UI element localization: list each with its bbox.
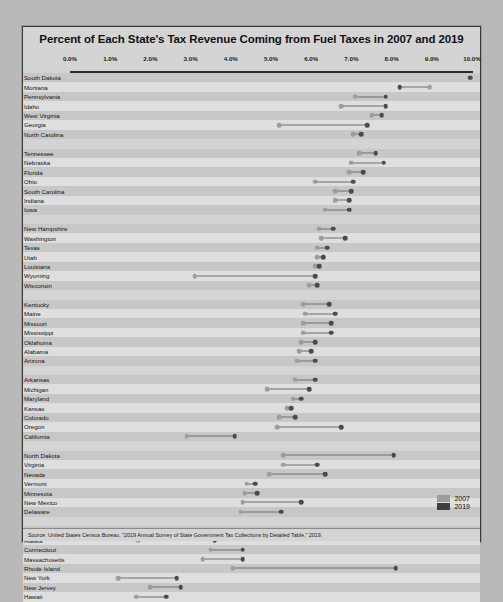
legend-label-2019: 2019: [454, 503, 470, 510]
x-axis-tick-label: 1.0%: [103, 55, 117, 62]
row-stripe: [23, 403, 480, 412]
data-point-2007: [301, 302, 306, 307]
chart-row: Oklahoma: [70, 337, 472, 346]
chart-row: Hawaii: [70, 592, 472, 601]
data-point-2007: [315, 255, 320, 260]
chart-row: Arkansas: [70, 375, 472, 384]
chart-row: Vermont: [70, 479, 472, 488]
row-label: Indiana: [24, 196, 44, 205]
chart-row: North Carolina: [70, 130, 472, 139]
data-point-2007: [267, 472, 272, 477]
data-point-2019: [379, 113, 384, 118]
row-stripe: [23, 422, 480, 431]
data-point-2007: [265, 387, 270, 392]
chart-row: Maryland: [70, 394, 472, 403]
row-stripe: [23, 413, 480, 422]
chart-row: Iowa: [70, 205, 472, 214]
data-point-2007: [245, 481, 250, 486]
x-axis-tick-label: 0.0%: [63, 55, 77, 62]
data-point-2019: [299, 396, 304, 401]
connector-line: [118, 577, 176, 578]
data-point-2019: [391, 453, 396, 458]
connector-line: [269, 474, 325, 475]
data-point-2007: [317, 226, 322, 231]
row-label: Nevada: [24, 470, 45, 479]
data-point-2007: [281, 462, 286, 467]
data-point-2019: [299, 500, 304, 505]
row-label: Pennsylvania: [24, 92, 60, 101]
data-point-2019: [313, 340, 318, 345]
data-point-2019: [164, 594, 169, 599]
row-stripe: [23, 252, 480, 261]
data-point-2019: [315, 283, 320, 288]
chart-row: Kansas: [70, 403, 472, 412]
data-point-2019: [178, 585, 183, 590]
row-stripe: [23, 318, 480, 327]
separator-stripe: [23, 290, 480, 299]
row-label: New Jersey: [24, 583, 56, 592]
chart-row: Louisiana: [70, 262, 472, 271]
row-label: Arkansas: [24, 375, 49, 384]
data-point-2007: [315, 245, 320, 250]
chart-row: Kentucky: [70, 300, 472, 309]
data-point-2019: [321, 255, 326, 260]
row-label: Mississippi: [24, 328, 53, 337]
x-axis-tick-label: 5.0%: [264, 55, 278, 62]
data-point-2007: [303, 311, 308, 316]
x-axis-tick-label: 9.0%: [425, 55, 439, 62]
legend-label-2007: 2007: [454, 495, 470, 502]
row-stripe: [23, 73, 480, 82]
row-label: Vermont: [24, 479, 47, 488]
row-stripe: [23, 186, 480, 195]
connector-line: [243, 502, 301, 503]
row-stripe: [23, 337, 480, 346]
row-label: Kentucky: [24, 300, 49, 309]
row-stripe: [23, 130, 480, 139]
data-point-2007: [339, 104, 344, 109]
data-point-2007: [241, 500, 246, 505]
row-label: West Virginia: [24, 111, 60, 120]
connector-line: [303, 304, 329, 305]
data-point-2019: [307, 387, 312, 392]
connector-line: [303, 323, 331, 324]
chart-row: Montana: [70, 82, 472, 91]
data-point-2007: [313, 179, 318, 184]
row-stripe: [23, 469, 480, 478]
data-point-2007: [134, 594, 139, 599]
data-point-2019: [174, 576, 179, 581]
row-label: Colorado: [24, 413, 49, 422]
data-point-2007: [231, 566, 236, 571]
chart-row: Utah: [70, 252, 472, 261]
row-label: New York: [24, 573, 50, 582]
data-point-2019: [241, 557, 246, 562]
connector-line: [136, 596, 166, 597]
data-point-2019: [315, 462, 320, 467]
data-point-2007: [351, 132, 356, 137]
chart-row: Maine: [70, 309, 472, 318]
chart-row: Pennsylvania: [70, 92, 472, 101]
data-point-2007: [299, 340, 304, 345]
data-point-2007: [427, 85, 432, 90]
legend-item-2019: 2019: [437, 503, 470, 510]
legend-swatch-2019: [437, 503, 450, 510]
data-point-2019: [329, 321, 334, 326]
data-point-2007: [333, 189, 338, 194]
connector-line: [283, 464, 317, 465]
row-label: Ohio: [24, 177, 37, 186]
connector-line: [211, 549, 243, 550]
data-point-2007: [297, 349, 302, 354]
data-point-2019: [333, 311, 338, 316]
connector-line: [315, 181, 353, 182]
row-stripe: [23, 111, 480, 120]
data-point-2019: [293, 415, 298, 420]
data-point-2019: [347, 208, 352, 213]
connector-line: [283, 455, 394, 456]
data-point-2007: [277, 123, 282, 128]
row-stripe: [23, 309, 480, 318]
row-label: Wisconsin: [24, 281, 52, 290]
data-point-2019: [255, 491, 260, 496]
row-stripe: [23, 205, 480, 214]
data-point-2007: [293, 377, 298, 382]
connector-line: [341, 106, 385, 107]
row-stripe: [23, 451, 480, 460]
